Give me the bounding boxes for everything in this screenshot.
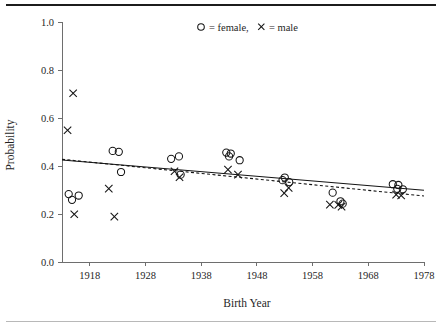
data-point-female	[168, 155, 175, 162]
data-point-male	[176, 174, 183, 181]
y-tick-label: 0.8	[41, 65, 54, 76]
x-tick-group: 1918192819381948195819681978	[79, 262, 434, 281]
data-point-female	[75, 192, 82, 199]
x-tick-label: 1928	[135, 270, 156, 281]
data-point-male	[105, 185, 112, 192]
y-tick-group: 0.00.20.40.60.81.0	[41, 17, 62, 268]
data-point-male	[281, 189, 288, 196]
data-point-female	[236, 157, 243, 164]
x-tick-label: 1978	[414, 270, 435, 281]
y-tick-label: 0.0	[41, 257, 54, 268]
data-point-male	[111, 213, 118, 220]
x-tick-label: 1968	[358, 270, 379, 281]
y-tick-label: 0.6	[41, 113, 54, 124]
y-tick-label: 0.4	[41, 161, 55, 172]
legend-male-cross-icon	[258, 24, 264, 30]
data-point-female	[68, 196, 75, 203]
legend: = female, = male	[198, 22, 299, 33]
y-tick-label: 1.0	[41, 17, 54, 28]
legend-female-circle-icon	[198, 24, 205, 31]
x-tick-label: 1958	[302, 270, 323, 281]
data-point-male	[224, 166, 231, 173]
x-tick-label: 1938	[191, 270, 212, 281]
data-points-group	[64, 90, 407, 221]
x-axis-title: Birth Year	[223, 297, 270, 309]
data-point-male	[71, 211, 78, 218]
data-point-male	[69, 90, 76, 97]
legend-male-label: = male	[269, 22, 298, 33]
data-point-male	[64, 127, 71, 134]
figure-container: 0.00.20.40.60.81.0 191819281938194819581…	[0, 0, 442, 325]
scatter-plot: 0.00.20.40.60.81.0 191819281938194819581…	[0, 0, 442, 325]
x-tick-label: 1948	[246, 270, 267, 281]
regression-lines-group	[62, 159, 424, 196]
data-point-female	[175, 153, 182, 160]
male-fit	[62, 159, 424, 196]
axes-group	[62, 22, 424, 262]
data-point-female	[117, 168, 124, 175]
data-point-female	[329, 189, 336, 196]
y-tick-label: 0.2	[41, 209, 54, 220]
x-tick-label: 1918	[79, 270, 100, 281]
y-axis-title: Probability	[4, 119, 17, 170]
data-point-male	[326, 201, 333, 208]
legend-female-label: = female,	[209, 22, 249, 33]
